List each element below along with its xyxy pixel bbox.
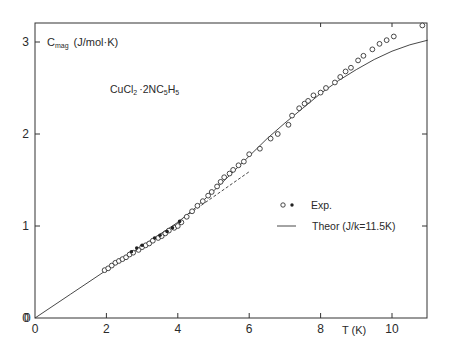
data-point-filled xyxy=(135,246,139,250)
data-point-open xyxy=(349,65,354,70)
specific-heat-chart: 0246810 01230 Cmag(J/mol·K) CuCl2·2NC5H5… xyxy=(0,0,449,353)
data-point-open xyxy=(332,80,337,85)
x-axis-label: T (K) xyxy=(342,324,366,336)
theory-line xyxy=(35,40,428,318)
data-point-open xyxy=(391,34,396,39)
data-point-open xyxy=(200,199,205,204)
data-point-filled xyxy=(130,250,134,254)
data-point-open xyxy=(215,184,220,189)
data-point-filled xyxy=(178,220,182,224)
data-point-open xyxy=(222,175,227,180)
legend-label-theor: Theor (J/k=11.5K) xyxy=(312,220,396,232)
legend-open-circle-icon xyxy=(281,203,285,207)
x-tick-label: 10 xyxy=(385,322,399,336)
data-point-open xyxy=(236,163,241,168)
y-tick-label: 1 xyxy=(22,219,29,233)
data-point-open xyxy=(420,23,425,28)
data-point-open xyxy=(286,122,291,127)
data-point-filled xyxy=(158,233,162,237)
data-point-open xyxy=(297,106,302,111)
data-point-open xyxy=(306,98,311,103)
data-point-open xyxy=(184,214,189,219)
x-tick-label: 2 xyxy=(103,322,110,336)
data-point-open xyxy=(231,167,236,172)
compound-annotation: CuCl2·2NC5H5 xyxy=(110,83,179,96)
data-point-open xyxy=(361,53,366,58)
data-point-open xyxy=(370,47,375,52)
data-point-open xyxy=(190,209,195,214)
y-axis-label-sub: mag xyxy=(55,42,69,50)
experimental-points xyxy=(102,23,425,273)
data-point-open xyxy=(311,93,316,98)
theory-curve xyxy=(35,40,428,318)
y-axis-label-units: (J/mol·K) xyxy=(74,36,119,48)
data-point-open xyxy=(343,69,348,74)
data-point-filled xyxy=(165,230,169,234)
data-point-open xyxy=(247,152,252,157)
data-point-open xyxy=(258,146,263,151)
data-point-open xyxy=(356,58,361,63)
x-tick-label: 0 xyxy=(32,322,39,336)
data-point-open xyxy=(195,203,200,208)
y-tick-label: 3 xyxy=(22,35,29,49)
data-point-open xyxy=(241,159,246,164)
y-tick-label: 2 xyxy=(22,127,29,141)
data-point-open xyxy=(384,38,389,43)
legend-label-exp: Exp. xyxy=(311,199,332,211)
data-point-open xyxy=(338,75,343,80)
x-tick-label: 6 xyxy=(246,322,253,336)
legend-filled-dot-icon xyxy=(290,203,293,206)
y-axis-label: Cmag(J/mol·K) xyxy=(47,36,118,50)
x-tick-label: 8 xyxy=(317,322,324,336)
data-point-filled xyxy=(171,226,175,230)
data-point-open xyxy=(209,190,214,195)
data-point-open xyxy=(218,179,223,184)
legend: Exp. Theor (J/k=11.5K) xyxy=(277,199,396,232)
y-axis-label-main: C xyxy=(47,36,55,48)
x-tick-label: 4 xyxy=(174,322,181,336)
data-point-open xyxy=(377,41,382,46)
data-point-open xyxy=(290,113,295,118)
data-point-open xyxy=(268,136,273,141)
data-point-open xyxy=(275,132,280,137)
data-point-open xyxy=(324,86,329,91)
origin-label: 0 xyxy=(24,311,31,325)
data-point-filled xyxy=(153,236,157,240)
y-tick-labels: 01230 xyxy=(22,35,31,325)
data-point-filled xyxy=(140,244,144,248)
data-point-open xyxy=(318,90,323,95)
